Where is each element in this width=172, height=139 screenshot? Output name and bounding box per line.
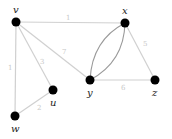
edge-weight-v-x: 1 [66, 14, 70, 22]
edge-x-y-curve-right [90, 23, 125, 80]
edge-v-y [16, 22, 90, 80]
node-label-u: u [50, 97, 56, 108]
node-x [121, 19, 130, 28]
node-label-w: w [11, 123, 20, 134]
node-y [86, 76, 95, 85]
edge-v-x [16, 22, 125, 23]
edge-weight-u-w: 2 [37, 104, 41, 112]
edge-x-y-curve-left [90, 23, 125, 80]
graph-canvas: 1 1 3 7 5 6 2 v x y z u w [0, 0, 172, 139]
edge-weight-y-z: 6 [121, 84, 126, 92]
node-z [151, 76, 160, 85]
edge-weight-v-w: 1 [8, 64, 12, 72]
node-w [11, 112, 20, 121]
edge-weight-v-y: 7 [62, 48, 66, 56]
node-label-v: v [13, 4, 19, 15]
node-u [49, 86, 58, 95]
edge-u-w [15, 90, 53, 116]
edge-x-z [125, 23, 155, 80]
edge-weight-x-z: 5 [143, 40, 147, 48]
node-label-x: x [122, 5, 128, 16]
node-v [12, 18, 21, 27]
edge-v-w [15, 22, 16, 116]
node-label-z: z [151, 87, 158, 98]
edge-weight-v-u: 3 [40, 58, 44, 66]
edge-v-u [16, 22, 53, 90]
node-label-y: y [86, 87, 93, 98]
